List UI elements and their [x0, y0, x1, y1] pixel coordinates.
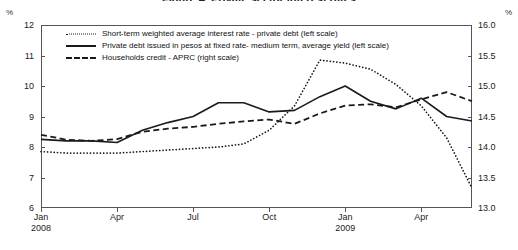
left-tick-mark [41, 86, 45, 87]
y-axis-left-tick-2: 10 [0, 81, 34, 91]
legend-label: Private debt issued in pesos at fixed ra… [102, 40, 389, 52]
y-axis-left-tick-5: 7 [0, 173, 34, 183]
legend-item-private-debt-fixed-rate: Private debt issued in pesos at fixed ra… [66, 40, 426, 52]
x-axis-year-label-0: 2008 [31, 223, 51, 233]
left-tick-mark [41, 178, 45, 179]
y-axis-right-tick-5: 13.5 [478, 173, 516, 183]
legend-dotted-line-icon [66, 29, 96, 39]
y-axis-left-tick-0: 12 [0, 20, 34, 30]
x-axis-tick-label-0: Jan [34, 212, 49, 222]
right-axis-unit-label: % [505, 8, 512, 17]
legend-label: Households credit - APRC (right scale) [102, 52, 239, 64]
right-tick-mark [468, 117, 472, 118]
legend-dashed-line-icon [66, 53, 96, 63]
legend-solid-line-icon [66, 41, 96, 51]
x-axis-tick-label-3: Oct [262, 212, 276, 222]
y-axis-right-tick-2: 15.0 [478, 81, 516, 91]
y-axis-left-tick-3: 9 [0, 112, 34, 122]
right-tick-mark [468, 86, 472, 87]
left-axis-unit-label: % [6, 8, 13, 17]
legend-item-short-term-rate: Short-term weighted average interest rat… [66, 28, 426, 40]
legend-label: Short-term weighted average interest rat… [102, 28, 338, 40]
chart-container: Figure 4. Private sector interest rates … [0, 0, 518, 250]
x-axis-tick-label-5: Apr [414, 212, 428, 222]
left-tick-mark [41, 56, 45, 57]
left-tick-mark [41, 117, 45, 118]
y-axis-right-tick-3: 14.5 [478, 112, 516, 122]
y-axis-right-tick-6: 13.0 [478, 203, 516, 213]
x-axis-tick-label-2: Jul [187, 212, 199, 222]
y-axis-right-tick-0: 16.0 [478, 20, 516, 30]
y-axis-left-tick-1: 11 [0, 51, 34, 61]
x-axis-tick-label-4: Jan [338, 212, 353, 222]
right-tick-mark [468, 56, 472, 57]
x-axis-tick-label-1: Apr [110, 212, 124, 222]
x-axis-year-label-4: 2009 [335, 223, 355, 233]
legend-item-households-credit-aprc: Households credit - APRC (right scale) [66, 52, 426, 64]
y-axis-left-tick-6: 6 [0, 203, 34, 213]
chart-title: Figure 4. Private sector interest rates [0, 0, 518, 1]
right-tick-mark [468, 147, 472, 148]
y-axis-left-tick-4: 8 [0, 142, 34, 152]
y-axis-right-tick-4: 14.0 [478, 142, 516, 152]
chart-legend: Short-term weighted average interest rat… [66, 28, 426, 64]
left-tick-mark [41, 147, 45, 148]
right-tick-mark [468, 178, 472, 179]
y-axis-right-tick-1: 15.5 [478, 51, 516, 61]
